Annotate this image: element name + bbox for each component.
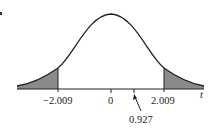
label-test-statistic: 0.927: [129, 115, 153, 126]
label-left-critical: −2.009: [43, 96, 73, 107]
label-right-critical: 2.009: [151, 96, 175, 107]
t-distribution-diagram: [0, 0, 214, 133]
density-curve: [17, 14, 204, 86]
axis-label-t: t: [200, 90, 203, 101]
label-zero: 0: [108, 96, 113, 107]
test-stat-arrow: [135, 97, 141, 111]
right-tail-shade: [164, 68, 204, 89]
left-tail-shade: [17, 68, 58, 89]
